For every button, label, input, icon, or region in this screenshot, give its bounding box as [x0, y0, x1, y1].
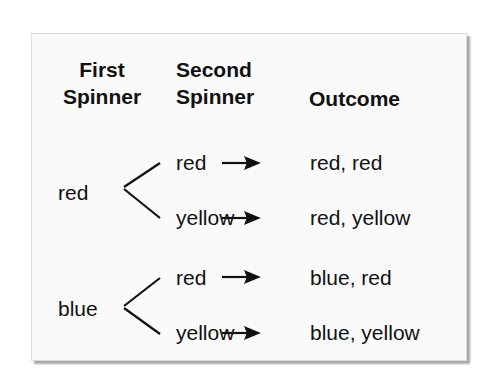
- outcome-blue-red: blue, red: [310, 267, 392, 288]
- outcome-blue-yellow: blue, yellow: [310, 322, 420, 343]
- second-spinner-red-1: red: [176, 152, 206, 173]
- outcome-red-yellow: red, yellow: [310, 207, 410, 228]
- outcome-red-red: red, red: [310, 152, 382, 173]
- first-spinner-red: red: [58, 182, 88, 203]
- second-spinner-yellow-2: yellow: [176, 322, 234, 343]
- second-spinner-red-2: red: [176, 267, 206, 288]
- first-spinner-blue: blue: [58, 298, 98, 319]
- second-spinner-yellow-1: yellow: [176, 207, 234, 228]
